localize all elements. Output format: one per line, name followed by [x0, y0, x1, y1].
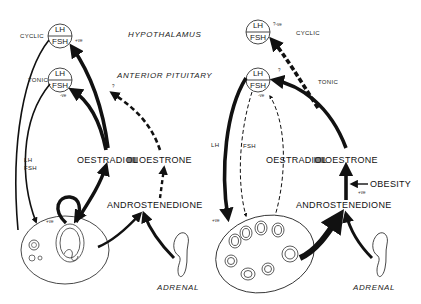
right-lh-pathway-label: LH [211, 142, 219, 148]
anterior-pituitary-label: ANTERIOR PITUITARY [117, 72, 212, 80]
left-adrenal-to-androstenedione-arrow [144, 214, 174, 258]
right-oestradiol-label: OESTRADIOL [266, 156, 327, 165]
left-pituitary-lh-label: LH [50, 70, 70, 78]
right-fsh-dashed-arrow [240, 92, 252, 216]
left-lh-pathway-label: LH [24, 157, 32, 163]
left-cyclic-label: CYCLIC [20, 33, 44, 39]
right-adrenal-shape [373, 233, 388, 277]
right-hypothalamus-fsh-label: FSH [248, 34, 268, 42]
left-oestrone-label: OESTRONE [139, 156, 192, 165]
right-ovary-annotation: +ve [212, 219, 219, 224]
right-pituitary-question-annotation: ? [278, 69, 281, 74]
right-hypothalamus-lh-label: LH [248, 22, 268, 30]
left-oestradiol-label: OESTRADIOL [77, 156, 138, 165]
left-fsh-pathway-label: FSH [24, 165, 37, 171]
left-hypothalamus-fsh-label: FSH [50, 38, 70, 46]
left-oestradiol-to-pituitary-arrow [72, 90, 106, 150]
left-ovary [21, 216, 109, 284]
right-pituitary-lh-label: LH [248, 70, 268, 78]
right-oestrone-to-hypothalamus-dashed-arrow [272, 40, 318, 108]
right-fsh-pathway-label: FSH [243, 143, 256, 149]
right-androstenedione-label: ANDROSTENEDIONE [296, 201, 392, 210]
hypothalamus-label: HYPOTHALAMUS [128, 31, 201, 39]
right-tonic-label: TONIC [318, 79, 338, 85]
right-oestrone-label: OESTRONE [325, 156, 378, 165]
right-pituitary-annotation: -ve [258, 94, 264, 99]
right-hypothalamus-annotation: ?-ve [273, 23, 282, 28]
left-adrenal-label: ADRENAL [157, 284, 199, 292]
left-oestrone-question-annotation: ? [112, 85, 115, 90]
left-ovary-annotation: +ve [46, 220, 53, 225]
left-hypothalamus-annotation: +ve [75, 39, 82, 44]
right-obesity-annotation: +ve [358, 191, 365, 196]
right-oestrone-to-pituitary-arrow [274, 80, 346, 148]
left-tonic-label: TONIC [28, 77, 48, 83]
left-adrenal-shape [174, 233, 189, 277]
right-adrenal-label: ADRENAL [353, 284, 395, 292]
left-cyclic-lh-fsh-line [16, 40, 49, 230]
left-panel [16, 24, 189, 284]
right-pituitary-fsh-label: FSH [248, 82, 268, 90]
left-pituitary-fsh-label: FSH [50, 82, 70, 90]
left-androstenedione-label: ANDROSTENEDIONE [107, 201, 203, 210]
right-obesity-label: OBESITY [370, 180, 411, 189]
left-androstenedione-to-oestrone-dashed-arrow [160, 168, 164, 198]
left-hypothalamus-lh-label: LH [50, 26, 70, 34]
left-follicle-to-oestradiol-arrow [76, 166, 106, 222]
left-tonic-lh-fsh-arrow [25, 84, 50, 222]
right-adrenal-to-androstenedione-arrow [346, 214, 372, 258]
right-cyclic-label: CYCLIC [296, 30, 320, 36]
left-pituitary-annotation: -ve [60, 94, 66, 99]
left-oestrone-to-pituitary-dashed-arrow [112, 93, 160, 150]
